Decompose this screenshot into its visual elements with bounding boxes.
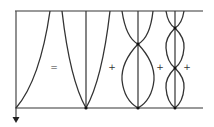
- mode-3-panel: [166, 11, 184, 110]
- mode-diagram: [0, 0, 214, 127]
- plus-sign-1: +: [108, 63, 116, 72]
- plus-sign-3: +: [183, 63, 191, 72]
- equals-sign: =: [50, 63, 58, 72]
- initial-shape-curve: [16, 11, 50, 108]
- mode-2-panel: [122, 11, 154, 110]
- mode-1-panel: [62, 11, 110, 110]
- plus-sign-2: +: [156, 63, 164, 72]
- arrow-down-icon: [13, 117, 20, 123]
